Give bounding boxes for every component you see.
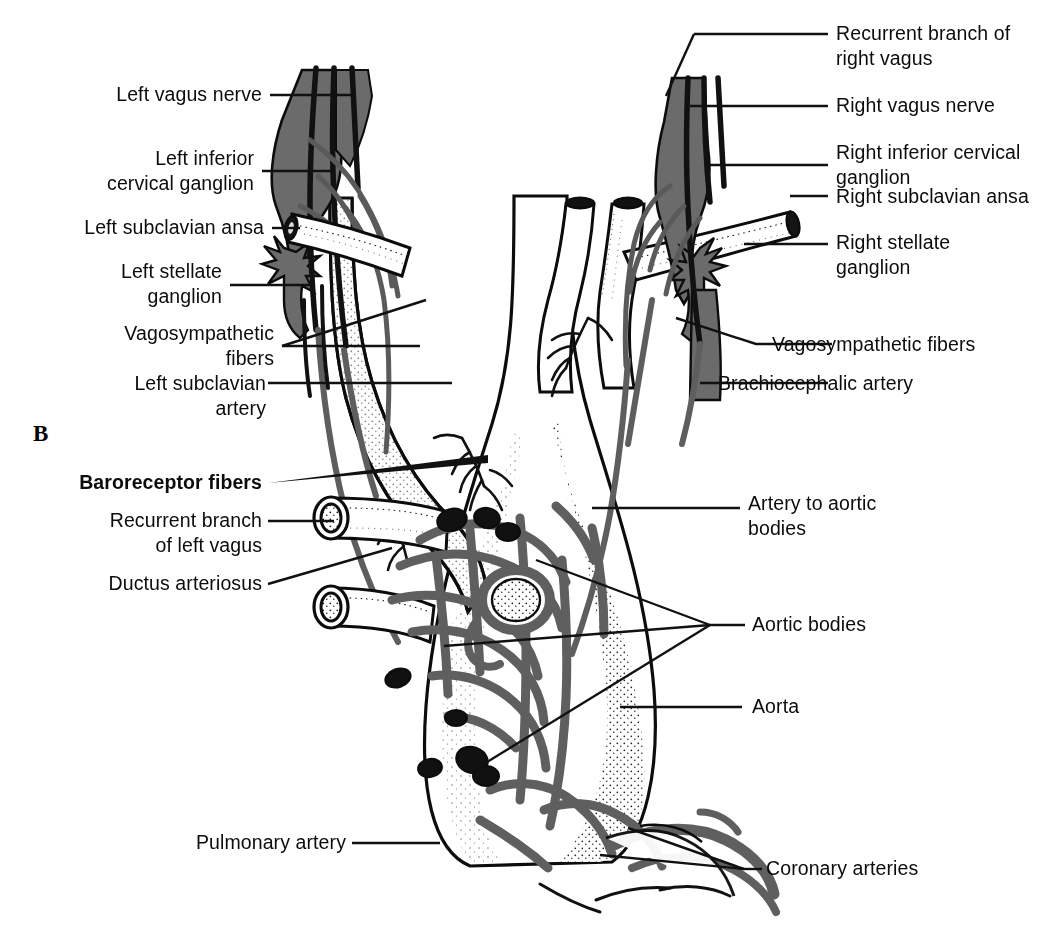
panel-letter-b: B	[33, 421, 48, 447]
label-recurrent-branch-right-vagus-line2: right vagus	[836, 46, 933, 71]
label-left-subclavian-artery-line1: Left subclavian	[0, 371, 266, 396]
label-left-inferior-cervical-ganglion-line1: Left inferior	[0, 146, 254, 171]
label-brachiocephalic-artery: Brachiocephalic artery	[718, 371, 913, 396]
label-recurrent-branch-right-vagus-line1: Recurrent branch of	[836, 21, 1010, 46]
label-recurrent-branch-left-vagus-line1: Recurrent branch	[0, 508, 262, 533]
label-vagosympathetic-fibers-left-line1: Vagosympathetic	[0, 321, 274, 346]
figure-page: B Left vagus nerve Left inferior cervica…	[0, 0, 1062, 928]
label-right-vagus-nerve: Right vagus nerve	[836, 93, 995, 118]
label-right-stellate-ganglion-line1: Right stellate	[836, 230, 950, 255]
label-baroreceptor-fibers: Baroreceptor fibers	[0, 470, 262, 495]
label-left-vagus-nerve: Left vagus nerve	[0, 82, 262, 107]
label-coronary-arteries: Coronary arteries	[766, 856, 918, 881]
label-recurrent-branch-left-vagus-line2: of left vagus	[0, 533, 262, 558]
label-aortic-bodies: Aortic bodies	[752, 612, 866, 637]
label-left-subclavian-ansa: Left subclavian ansa	[0, 215, 264, 240]
label-artery-to-aortic-bodies-line1: Artery to aortic	[748, 491, 876, 516]
label-left-stellate-ganglion-line1: Left stellate	[0, 259, 222, 284]
label-pulmonary-artery: Pulmonary artery	[0, 830, 346, 855]
leader-ductus-arteriosus	[268, 548, 392, 584]
label-left-subclavian-artery-line2: artery	[0, 396, 266, 421]
label-right-inferior-cervical-ganglion-line1: Right inferior cervical	[836, 140, 1020, 165]
label-aorta: Aorta	[752, 694, 799, 719]
label-ductus-arteriosus: Ductus arteriosus	[0, 571, 262, 596]
label-vagosympathetic-fibers-left-line2: fibers	[0, 346, 274, 371]
label-right-subclavian-ansa: Right subclavian ansa	[836, 184, 1029, 209]
label-vagosympathetic-fibers-right: Vagosympathetic fibers	[772, 332, 975, 357]
label-artery-to-aortic-bodies-line2: bodies	[748, 516, 806, 541]
label-left-stellate-ganglion-line2: ganglion	[0, 284, 222, 309]
label-left-inferior-cervical-ganglion-line2: cervical ganglion	[0, 171, 254, 196]
label-right-stellate-ganglion-line2: ganglion	[836, 255, 911, 280]
